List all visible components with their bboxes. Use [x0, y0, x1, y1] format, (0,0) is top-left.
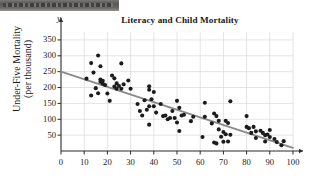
x-tick-label: 40: [144, 157, 164, 167]
x-tick-label: 60: [190, 157, 210, 167]
x-tick-label: 80: [237, 157, 257, 167]
plot-area: [61, 32, 293, 151]
x-tick-label: 10: [74, 157, 94, 167]
scatter-chart: Literacy and Child Mortality Under-Five …: [0, 0, 317, 178]
x-tick-label: 70: [213, 157, 233, 167]
gridlines: [61, 32, 293, 151]
chart-title: Literacy and Child Mortality: [95, 15, 265, 25]
y-tick-label: 50: [30, 130, 56, 140]
data-points: [84, 53, 285, 147]
y-tick-label: 350: [30, 34, 56, 44]
plot-svg: [61, 32, 293, 151]
y-tick-label: 150: [30, 98, 56, 108]
y-tick-label: 200: [30, 82, 56, 92]
y-tick-label: 250: [30, 66, 56, 76]
y-tick-label: 100: [30, 114, 56, 124]
x-tick-label: 0: [51, 157, 71, 167]
x-tick-label: 90: [260, 157, 280, 167]
x-tick-label: 50: [167, 157, 187, 167]
x-tick-label: 20: [97, 157, 117, 167]
y-tick-label: 300: [30, 50, 56, 60]
x-tick-label: 100: [283, 157, 303, 167]
x-tick-label: 30: [121, 157, 141, 167]
